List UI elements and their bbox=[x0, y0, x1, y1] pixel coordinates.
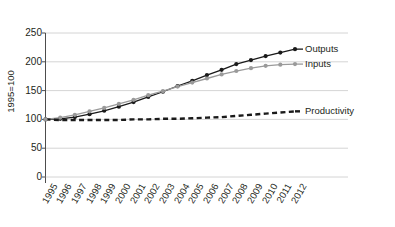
series-label-productivity: Productivity bbox=[305, 105, 354, 116]
series-label-inputs: Inputs bbox=[305, 58, 331, 69]
series-label-outputs: Outputs bbox=[305, 43, 338, 54]
line-chart: 1995=100 050100150200250 199519961997199… bbox=[0, 0, 395, 227]
